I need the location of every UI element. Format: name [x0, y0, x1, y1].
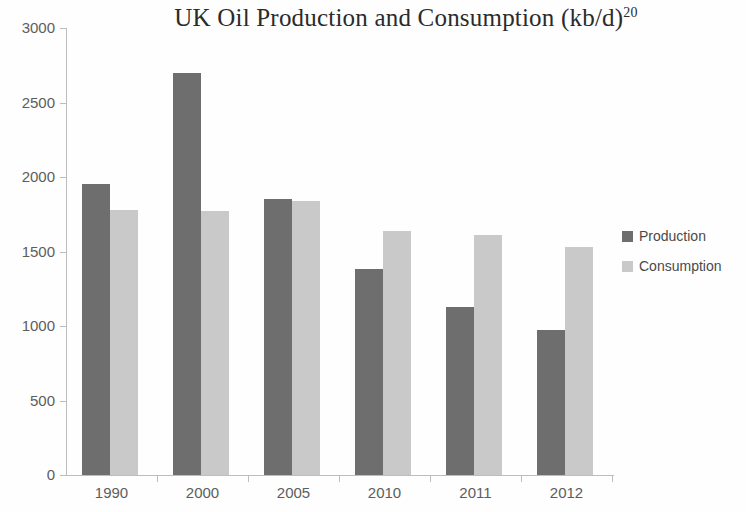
- bar-consumption-2005: [292, 201, 320, 475]
- y-axis-label: 1500: [3, 243, 55, 260]
- y-axis-label: 0: [3, 466, 55, 483]
- x-axis-tick: [430, 475, 431, 482]
- x-axis-label: 2005: [248, 484, 340, 501]
- chart-container: UK Oil Production and Consumption (kb/d)…: [0, 0, 746, 512]
- x-axis-label: 2012: [521, 484, 613, 501]
- legend-label: Consumption: [639, 258, 722, 274]
- bar-production-2011: [446, 307, 474, 475]
- chart-legend: ProductionConsumption: [622, 228, 740, 288]
- x-axis-tick: [157, 475, 158, 482]
- bar-production-2005: [264, 199, 292, 475]
- plot-area: [66, 28, 612, 475]
- legend-item-consumption[interactable]: Consumption: [622, 258, 740, 274]
- x-axis-label: 2011: [430, 484, 522, 501]
- chart-title-text: UK Oil Production and Consumption (kb/d): [174, 4, 623, 31]
- bar-consumption-1990: [110, 210, 138, 475]
- x-axis-tick: [521, 475, 522, 482]
- y-axis-label: 1000: [3, 317, 55, 334]
- x-axis-tick: [339, 475, 340, 482]
- legend-swatch-icon: [622, 231, 633, 242]
- bar-consumption-2011: [474, 235, 502, 475]
- legend-swatch-icon: [622, 261, 633, 272]
- bar-consumption-2000: [201, 211, 229, 475]
- y-axis-label: 2000: [3, 168, 55, 185]
- chart-title-footnote: 20: [623, 5, 637, 20]
- bar-consumption-2010: [383, 231, 411, 475]
- y-axis-label: 500: [3, 392, 55, 409]
- x-axis-tick: [248, 475, 249, 482]
- bar-production-2000: [173, 73, 201, 475]
- x-axis-tick: [612, 475, 613, 482]
- legend-label: Production: [639, 228, 706, 244]
- legend-item-production[interactable]: Production: [622, 228, 740, 244]
- x-axis-label: 2000: [157, 484, 249, 501]
- y-axis-label: 3000: [3, 19, 55, 36]
- x-axis-label: 2010: [339, 484, 431, 501]
- bar-consumption-2012: [565, 247, 593, 475]
- y-axis-tick: [60, 475, 67, 476]
- bar-production-2012: [537, 330, 565, 475]
- y-axis-label: 2500: [3, 94, 55, 111]
- x-axis-line: [66, 475, 614, 476]
- x-axis-label: 1990: [66, 484, 158, 501]
- bar-production-2010: [355, 269, 383, 475]
- bar-production-1990: [82, 184, 110, 475]
